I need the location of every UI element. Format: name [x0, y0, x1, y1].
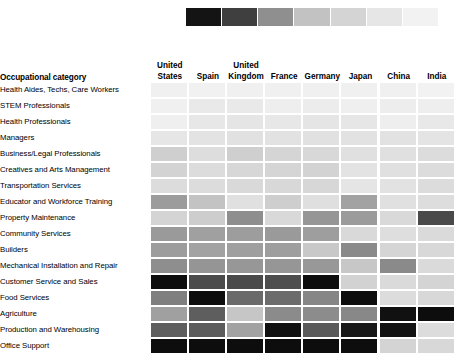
row-label-6: Transportation Services — [0, 178, 151, 194]
heat-cell — [303, 162, 341, 178]
heat-swatch-r1-c1 — [189, 99, 225, 113]
row-label-1: STEM Professionals — [0, 98, 151, 114]
heat-cell — [189, 290, 227, 306]
heat-cell — [189, 258, 227, 274]
heat-cell — [227, 338, 265, 354]
heat-swatch-r15-c2 — [227, 323, 263, 337]
heat-swatch-r2-c3 — [265, 115, 301, 129]
heat-cell — [151, 162, 189, 178]
heat-swatch-r14-c5 — [341, 307, 377, 321]
heat-swatch-r3-c2 — [227, 131, 263, 145]
table-row: Community Services — [0, 226, 456, 242]
heat-swatch-r15-c1 — [189, 323, 225, 337]
column-header-japan: Japan — [341, 48, 379, 82]
heat-cell — [189, 130, 227, 146]
heat-swatch-r3-c7 — [418, 131, 454, 145]
heat-cell — [341, 98, 379, 114]
heat-cell — [341, 290, 379, 306]
heat-swatch-r14-c0 — [151, 307, 187, 321]
heat-swatch-r15-c0 — [151, 323, 187, 337]
heat-cell — [151, 194, 189, 210]
heat-cell — [380, 146, 418, 162]
heat-cell — [265, 242, 303, 258]
heat-cell — [341, 146, 379, 162]
heat-cell — [265, 306, 303, 322]
heat-swatch-r3-c5 — [341, 131, 377, 145]
heat-swatch-r3-c4 — [303, 131, 339, 145]
heat-swatch-r4-c7 — [418, 147, 454, 161]
heat-cell — [151, 290, 189, 306]
heat-cell — [380, 130, 418, 146]
heat-cell — [418, 178, 456, 194]
column-header-china: China — [380, 48, 418, 82]
heat-swatch-r16-c4 — [303, 339, 339, 353]
heat-swatch-r10-c4 — [303, 243, 339, 257]
heat-swatch-r9-c3 — [265, 227, 301, 241]
heat-cell — [151, 306, 189, 322]
heat-cell — [151, 98, 189, 114]
heat-swatch-r15-c3 — [265, 323, 301, 337]
heat-swatch-r7-c7 — [418, 195, 454, 209]
heat-swatch-r9-c7 — [418, 227, 454, 241]
column-header-spain: Spain — [189, 48, 227, 82]
heat-cell — [303, 82, 341, 98]
heat-swatch-r2-c0 — [151, 115, 187, 129]
heat-swatch-r0-c5 — [341, 83, 377, 97]
heat-cell — [151, 226, 189, 242]
heat-swatch-r1-c5 — [341, 99, 377, 113]
heat-cell — [265, 146, 303, 162]
heat-cell — [303, 226, 341, 242]
row-label-8: Property Maintenance — [0, 210, 151, 226]
heat-cell — [303, 114, 341, 130]
heat-swatch-r11-c7 — [418, 259, 454, 273]
heatmap-table: Occupational category United StatesSpain… — [0, 48, 456, 354]
heat-swatch-r13-c1 — [189, 291, 225, 305]
heat-cell — [265, 98, 303, 114]
heat-cell — [341, 178, 379, 194]
heat-swatch-r16-c2 — [227, 339, 263, 353]
heat-cell — [303, 146, 341, 162]
heat-cell — [227, 130, 265, 146]
heat-cell — [380, 194, 418, 210]
table-row: Health Aides, Techs, Care Workers — [0, 82, 456, 98]
heat-swatch-r8-c7 — [418, 211, 454, 225]
heat-swatch-r7-c2 — [227, 195, 263, 209]
row-label-15: Production and Warehousing — [0, 322, 151, 338]
column-header-united-kingdom: United Kingdom — [227, 48, 265, 82]
heat-cell — [227, 194, 265, 210]
heat-swatch-r2-c4 — [303, 115, 339, 129]
heat-cell — [227, 322, 265, 338]
heat-cell — [265, 82, 303, 98]
heat-swatch-r12-c1 — [189, 275, 225, 289]
heat-swatch-r9-c6 — [380, 227, 416, 241]
table-row: STEM Professionals — [0, 98, 456, 114]
heat-cell — [418, 306, 456, 322]
heat-swatch-r0-c0 — [151, 83, 187, 97]
row-label-9: Community Services — [0, 226, 151, 242]
heat-swatch-r6-c1 — [189, 179, 225, 193]
heat-swatch-r8-c5 — [341, 211, 377, 225]
heat-swatch-r2-c6 — [380, 115, 416, 129]
heat-swatch-r12-c3 — [265, 275, 301, 289]
heat-cell — [189, 178, 227, 194]
heat-cell — [151, 178, 189, 194]
heat-cell — [303, 242, 341, 258]
heat-swatch-r14-c1 — [189, 307, 225, 321]
column-header-india: India — [418, 48, 456, 82]
heat-swatch-r7-c1 — [189, 195, 225, 209]
heat-swatch-r10-c3 — [265, 243, 301, 257]
heat-swatch-r6-c0 — [151, 179, 187, 193]
heat-swatch-r16-c5 — [341, 339, 377, 353]
table-header: Occupational category United StatesSpain… — [0, 48, 456, 82]
row-label-13: Food Services — [0, 290, 151, 306]
heat-swatch-r16-c3 — [265, 339, 301, 353]
heat-swatch-r16-c7 — [418, 339, 454, 353]
heat-swatch-r11-c1 — [189, 259, 225, 273]
heat-cell — [151, 258, 189, 274]
heat-swatch-r0-c4 — [303, 83, 339, 97]
heat-swatch-r15-c7 — [418, 323, 454, 337]
row-label-0: Health Aides, Techs, Care Workers — [0, 82, 151, 98]
heat-swatch-r3-c0 — [151, 131, 187, 145]
heat-cell — [303, 322, 341, 338]
heat-cell — [418, 242, 456, 258]
